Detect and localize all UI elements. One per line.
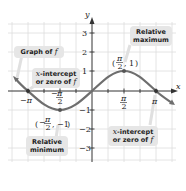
x-axis-label: x <box>176 82 181 91</box>
y-tick-1: 1 <box>82 67 87 76</box>
y-tick-neg3: −3 <box>79 144 91 153</box>
sine-graph-figure: x y 3 2 1 −1 −2 −3 −π − π 2 π 2 π ( π 2 … <box>0 0 186 191</box>
relative-minimum-callout: Relative minimum <box>26 136 68 156</box>
relative-maximum-callout: Relative maximum <box>130 26 172 46</box>
y-tick-3: 3 <box>82 29 87 38</box>
x-intercept-right-point <box>154 89 158 93</box>
min-point-label: ( − π 2 , −1 ) <box>35 115 70 132</box>
y-tick-neg2: −2 <box>79 125 91 134</box>
callout-text: Relative <box>32 138 62 146</box>
x-intercept-left-callout: x-intercept or zero of f <box>32 68 80 88</box>
svg-text:2: 2 <box>118 62 123 71</box>
callout-f: f <box>55 47 58 56</box>
svg-text:): ) <box>135 59 138 68</box>
y-tick-2: 2 <box>82 48 87 57</box>
callout-text: Relative <box>136 28 166 36</box>
svg-text:, 1: , 1 <box>124 59 134 68</box>
x-intercept-left-point <box>26 89 30 93</box>
callout-f: f <box>73 77 76 86</box>
x-tick-neg-pi: −π <box>20 96 33 105</box>
callout-f: f <box>150 135 153 144</box>
callout-text: maximum <box>133 36 169 44</box>
relative-maximum-point <box>122 69 126 73</box>
callout-text: or zero of <box>113 136 148 144</box>
callout-text: -intercept <box>40 70 76 78</box>
y-tick-neg1: −1 <box>79 106 91 115</box>
callout-text: or zero of <box>36 78 71 86</box>
y-axis-label: y <box>84 10 90 19</box>
svg-text:(: ( <box>35 120 38 129</box>
x-tick-pi: π <box>151 97 158 106</box>
svg-text:2: 2 <box>46 123 51 132</box>
x-intercept-right-callout: x-intercept or zero of f <box>108 126 158 146</box>
svg-text:(: ( <box>112 59 115 68</box>
y-axis-arrow-icon <box>90 17 95 24</box>
callout-text: Graph of <box>21 48 53 56</box>
callout-text: -intercept <box>117 128 153 136</box>
svg-text:2: 2 <box>122 102 127 111</box>
x-tick-neg-half-pi: − π 2 <box>51 89 63 106</box>
svg-text:): ) <box>67 120 70 129</box>
relative-minimum-point <box>58 108 62 112</box>
x-tick-half-pi: π 2 <box>120 94 127 111</box>
graph-of-f-callout: Graph of f <box>14 46 64 58</box>
svg-text:2: 2 <box>58 97 63 106</box>
callout-text: minimum <box>30 146 64 154</box>
